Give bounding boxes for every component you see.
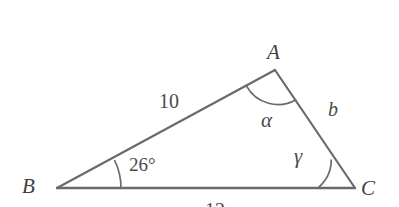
angle-label-c: γ xyxy=(294,146,302,167)
vertex-label-a: A xyxy=(267,42,280,63)
vertex-label-c: C xyxy=(361,178,375,199)
side-ba-line xyxy=(57,70,275,188)
angle-label-a: α xyxy=(261,110,272,131)
side-ac-line xyxy=(275,70,355,188)
angle-arc-c xyxy=(318,160,331,188)
triangle-figure xyxy=(0,0,399,207)
triangle-diagram: A B C 10 b 12 26° α γ xyxy=(0,0,399,207)
vertex-label-b: B xyxy=(22,176,35,197)
angle-arc-b xyxy=(115,160,122,188)
side-label-bc: 12 xyxy=(205,200,225,207)
side-label-ac: b xyxy=(328,99,338,119)
side-label-ba: 10 xyxy=(159,91,179,111)
angle-label-b: 26° xyxy=(129,155,156,174)
